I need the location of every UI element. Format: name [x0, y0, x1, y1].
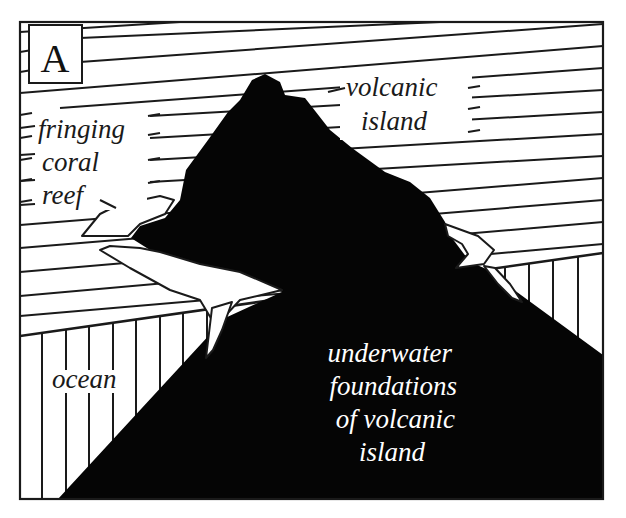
label-reef-line-1: fringing: [38, 114, 125, 144]
label-reef-line-2: coral: [42, 147, 99, 177]
label-ocean-text: ocean: [52, 364, 116, 394]
fringing-reef-diagram: A fringing coral reef volcanic island oc…: [0, 0, 626, 518]
label-foundations-line-2: foundations: [329, 371, 457, 401]
label-reef-line-3: reef: [42, 180, 86, 210]
panel-label-box: A: [29, 25, 82, 83]
label-ocean: ocean: [50, 364, 134, 394]
panel-label: A: [41, 36, 70, 81]
label-island-line-1: volcanic: [346, 72, 437, 102]
label-foundations-line-1: underwater: [328, 338, 453, 368]
label-island-line-2: island: [361, 106, 428, 136]
label-foundations-line-3: of volcanic: [336, 404, 455, 434]
label-foundations-line-4: island: [359, 437, 426, 467]
